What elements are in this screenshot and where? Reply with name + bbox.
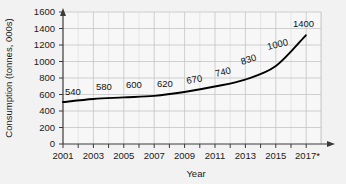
data-label-2001: 540: [65, 86, 81, 97]
y-tick-label: 800: [39, 72, 55, 83]
y-axis-title: Consumption (tonnes, 000s): [3, 18, 14, 137]
y-tick-label: 400: [39, 105, 55, 116]
data-label-2007: 620: [157, 78, 173, 89]
y-tick-label: 1200: [34, 39, 55, 50]
y-tick-label: 1000: [34, 56, 55, 67]
x-tick-label: 2007: [144, 150, 165, 161]
x-tick-label: 2005: [113, 150, 134, 161]
x-tick-label: 2011: [205, 150, 225, 161]
data-label-2003: 580: [96, 81, 112, 92]
x-tick-label: 2013: [235, 150, 256, 161]
x-tick-label: 2009: [174, 150, 195, 161]
x-tick-label: 2017*: [295, 150, 320, 161]
y-tick-label: 1600: [34, 6, 55, 17]
x-tick-label: 2003: [83, 150, 104, 161]
consumption-line-chart: 0 200 400 600 800 1000 1200 1400 1600 20…: [0, 0, 346, 184]
y-tick-label: 1400: [34, 23, 55, 34]
data-label-2017: 1400: [293, 18, 314, 29]
data-label-2005: 600: [126, 79, 142, 90]
x-tick-label: 2001: [52, 150, 73, 161]
y-tick-label: 600: [39, 89, 55, 100]
chart-figure: 0 200 400 600 800 1000 1200 1400 1600 20…: [0, 0, 346, 184]
y-tick-label: 0: [50, 138, 55, 149]
y-tick-label: 200: [39, 122, 55, 133]
x-axis-title: Year: [186, 168, 205, 179]
x-tick-label: 2015: [265, 150, 286, 161]
x-axis-tick-labels: 2001 2003 2005 2007 2009 2011 2013 2015 …: [52, 150, 320, 161]
